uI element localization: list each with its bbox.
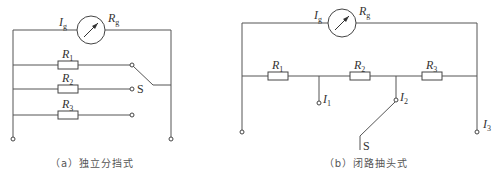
current-label-ig: Ig	[58, 15, 67, 31]
circuit-diagrams: Ig Rg R1 R2 R3 S （a）独立分挡式	[0, 0, 501, 181]
contact-3	[130, 113, 134, 117]
resistor-r3	[422, 72, 442, 80]
terminal-left	[11, 137, 15, 141]
resistance-label-rg: Rg	[107, 11, 119, 27]
galvanometer-icon	[328, 9, 356, 37]
r2-label: R2	[61, 71, 73, 87]
tap-i3-label: I3	[482, 117, 491, 133]
diagram-a-independent-range: Ig Rg R1 R2 R3 S （a）独立分挡式	[11, 11, 173, 169]
resistor-r1	[268, 72, 288, 80]
resistance-label-rg: Rg	[358, 4, 370, 20]
caption-b: （b）闭路抽头式	[324, 157, 408, 169]
terminal-left	[240, 130, 244, 134]
tap-i1-terminal	[317, 101, 321, 105]
resistor-r3	[58, 111, 78, 119]
r3-label: R3	[425, 58, 437, 74]
resistor-r1	[58, 61, 78, 69]
switch-label-s: S	[137, 82, 144, 96]
r2-label: R2	[353, 58, 365, 74]
tap-i2-terminal	[394, 98, 398, 102]
switch-blade	[360, 102, 395, 136]
contact-2	[130, 87, 134, 91]
diagram-b-closed-tap: Ig Rg R1 R2 R3 I1 I2 S I3 （b）闭路抽头式	[240, 4, 491, 169]
tap-i2-label: I2	[399, 90, 408, 106]
switch-label-s: S	[363, 139, 370, 153]
terminal-right	[169, 137, 173, 141]
caption-a: （a）独立分挡式	[50, 157, 134, 169]
r1-label: R1	[271, 58, 283, 74]
current-label-ig: Ig	[313, 8, 322, 24]
resistor-r2	[58, 85, 78, 93]
tap-i1-label: I1	[322, 92, 331, 108]
galvanometer-icon	[77, 16, 105, 44]
terminal-i3	[475, 130, 479, 134]
resistor-r2	[350, 72, 370, 80]
r3-label: R3	[61, 97, 73, 113]
r1-label: R1	[61, 47, 73, 63]
